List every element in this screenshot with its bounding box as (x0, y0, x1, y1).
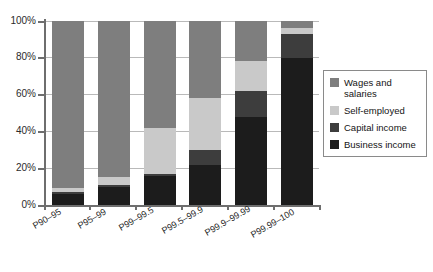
legend-swatch-business-income (330, 140, 339, 149)
x-tick-3 (181, 205, 183, 210)
bar-p90-95[interactable] (52, 21, 84, 205)
segment-wages-and-salaries (281, 21, 313, 28)
legend-label-capital-income: Capital income (344, 122, 407, 133)
segment-wages-and-salaries (52, 21, 84, 188)
segment-self-employed (98, 177, 130, 184)
bar-p99-99-100[interactable] (281, 21, 313, 205)
legend-item-capital-income[interactable]: Capital income (330, 122, 421, 133)
segment-self-employed (52, 188, 84, 192)
x-tick-2 (135, 205, 137, 210)
segment-wages-and-salaries (98, 21, 130, 177)
legend-swatch-self-employed (330, 106, 339, 115)
segment-wages-and-salaries (144, 21, 176, 128)
legend-swatch-capital-income (330, 123, 339, 132)
y-axis-label-40: 40% (0, 126, 36, 136)
bar-p95-99[interactable] (98, 21, 130, 205)
x-tick-6 (319, 205, 321, 210)
segment-business-income (189, 165, 221, 205)
x-tick-1 (89, 205, 91, 210)
segment-business-income (235, 117, 267, 205)
segment-self-employed (144, 128, 176, 174)
segment-business-income (98, 187, 130, 205)
bar-p99-99-5[interactable] (144, 21, 176, 205)
segment-capital-income (52, 192, 84, 194)
segment-business-income (52, 194, 84, 205)
y-axis-label-100: 100% (0, 16, 36, 26)
legend-item-business-income[interactable]: Business income (330, 139, 421, 150)
bar-p99-9-99-99[interactable] (235, 21, 267, 205)
y-axis-label-60: 60% (0, 89, 36, 99)
segment-capital-income (144, 174, 176, 176)
segment-capital-income (281, 34, 313, 58)
plot-area (44, 21, 319, 205)
x-tick-0 (44, 205, 46, 210)
y-axis-label-80: 80% (0, 52, 36, 62)
segment-business-income (144, 176, 176, 205)
legend-item-self-employed[interactable]: Self-employed (330, 105, 421, 116)
segment-capital-income (189, 150, 221, 165)
bar-p99-5-99-9[interactable] (189, 21, 221, 205)
legend: Wages and salaries Self-employed Capital… (323, 70, 427, 157)
y-axis-label-20: 20% (0, 163, 36, 173)
x-tick-4 (227, 205, 229, 210)
segment-self-employed (189, 98, 221, 150)
stacked-bar-chart: 100% 80% 60% 40% 20% 0% P90–95 P95–99 P9… (0, 0, 433, 272)
legend-item-wages-and-salaries[interactable]: Wages and salaries (330, 77, 421, 99)
legend-label-self-employed: Self-employed (344, 105, 405, 116)
segment-capital-income (235, 91, 267, 117)
legend-swatch-wages-and-salaries (330, 78, 339, 87)
segment-wages-and-salaries (189, 21, 221, 98)
x-axis-label-p99-99-100: P99.99–100 (249, 207, 296, 240)
y-axis-labels: 100% 80% 60% 40% 20% 0% (0, 0, 36, 272)
segment-business-income (281, 58, 313, 205)
segment-self-employed (235, 61, 267, 90)
y-axis-label-0: 0% (0, 200, 36, 210)
x-tick-5 (273, 205, 275, 210)
segment-self-employed (281, 28, 313, 34)
legend-label-wages-and-salaries: Wages and salaries (344, 77, 421, 99)
segment-wages-and-salaries (235, 21, 267, 61)
segment-capital-income (98, 185, 130, 187)
x-axis-label-p95-99: P95–99 (76, 206, 108, 230)
legend-label-business-income: Business income (344, 139, 416, 150)
